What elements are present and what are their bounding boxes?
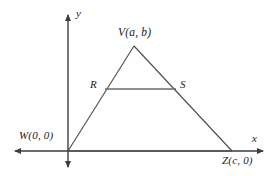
label-point-z: Z(c, 0) [222,155,253,166]
label-point-s: S [180,79,186,90]
label-point-r: R [90,79,97,90]
segment-wv [68,46,134,151]
geometry-figure: V(a, b) R S W(0, 0) Z(c, 0) x y [0,0,280,176]
label-x-axis: x [252,133,257,144]
segment-vz [134,46,232,151]
label-point-w: W(0, 0) [19,130,53,141]
label-point-v: V(a, b) [118,27,151,39]
label-y-axis: y [76,8,81,19]
